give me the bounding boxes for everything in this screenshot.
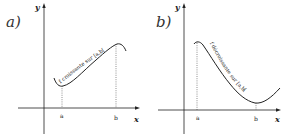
y-axis-label: y bbox=[174, 2, 181, 12]
x-axis-arrow-icon bbox=[135, 106, 140, 109]
tick-a: a bbox=[60, 112, 64, 119]
x-axis-label: x bbox=[274, 114, 280, 124]
curve-caption: f décroissante sur [a,b[ bbox=[209, 41, 248, 93]
y-axis-label: y bbox=[34, 2, 41, 12]
panel-a-label: a) bbox=[6, 13, 21, 31]
x-axis-label: x bbox=[133, 114, 139, 124]
tick-b: b bbox=[254, 115, 258, 122]
panel-b: b) y x a b f décroissante sur [a,b[ bbox=[156, 2, 281, 134]
function-curve bbox=[194, 42, 280, 103]
panel-b-label: b) bbox=[156, 13, 172, 31]
x-axis-arrow-icon bbox=[276, 108, 281, 111]
tick-b: b bbox=[114, 114, 118, 121]
curve-caption: f croissante sur [a,b[ bbox=[57, 47, 105, 85]
panel-a: a) y x a b f croissante sur [a,b[ bbox=[6, 2, 140, 134]
tick-a: a bbox=[196, 114, 200, 121]
y-axis-arrow-icon bbox=[42, 3, 45, 8]
y-axis-arrow-icon bbox=[182, 3, 185, 8]
figure-canvas: a) y x a b f croissante sur [a,b[ b) y x bbox=[0, 0, 285, 137]
